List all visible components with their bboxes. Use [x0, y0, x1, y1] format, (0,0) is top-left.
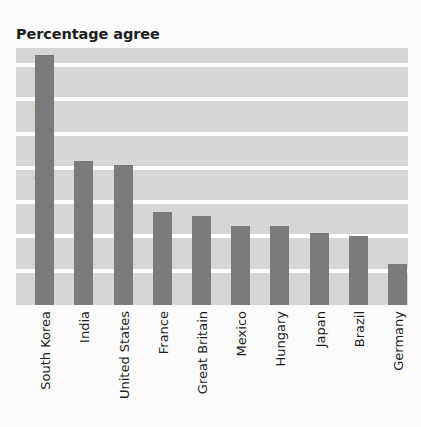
x-axis-tick-label: South Korea [35, 311, 54, 423]
bar [349, 236, 368, 305]
x-axis-tick-text: Mexico [234, 311, 247, 356]
x-axis-tick-text: Hungary [273, 311, 286, 367]
bar [192, 216, 211, 305]
bar-chart: Percentage agree 70605040302010 South Ko… [0, 0, 421, 427]
gridline [16, 132, 408, 136]
bar [388, 264, 407, 305]
x-axis-tick-text: India [77, 311, 90, 343]
chart-title: Percentage agree [16, 26, 160, 42]
x-axis-tick-label: Hungary [270, 311, 289, 423]
bar [270, 226, 289, 305]
x-axis-tick-text: Brazil [352, 311, 365, 347]
x-axis-tick-label: Germany [388, 311, 407, 423]
x-axis-tick-label: Brazil [349, 311, 368, 423]
bar [310, 233, 329, 305]
x-axis-tick-text: Great Britain [195, 311, 208, 394]
x-axis-tick-label: Mexico [231, 311, 250, 423]
x-axis-tick-label: Great Britain [192, 311, 211, 423]
x-axis-tick-text: Germany [391, 311, 404, 371]
x-axis-tick-label: India [74, 311, 93, 423]
gridline [16, 63, 408, 67]
x-axis-tick-text: United States [117, 311, 130, 399]
x-axis-labels: South KoreaIndiaUnited StatesFranceGreat… [16, 305, 408, 425]
bar [114, 165, 133, 305]
bar [74, 161, 93, 305]
x-axis-tick-label: Japan [310, 311, 329, 423]
plot-area: 70605040302010 [16, 48, 408, 305]
bar [153, 212, 172, 305]
x-axis-tick-label: United States [114, 311, 133, 423]
x-axis-tick-text: Japan [313, 311, 326, 347]
x-axis-tick-text: South Korea [38, 311, 51, 390]
bar [35, 55, 54, 305]
gridline [16, 97, 408, 101]
x-axis-tick-label: France [153, 311, 172, 423]
bar [231, 226, 250, 305]
x-axis-tick-text: France [156, 311, 169, 354]
